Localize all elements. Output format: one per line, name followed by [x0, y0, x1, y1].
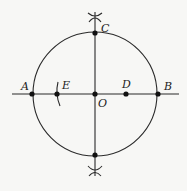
label-a: A [20, 80, 29, 93]
point-d [123, 91, 128, 96]
label-o: O [98, 97, 107, 110]
point-a [29, 91, 34, 96]
point-o [92, 91, 97, 96]
label-b: B [163, 80, 172, 93]
geometry-diagram: A E D B C O [0, 0, 187, 191]
point-e [54, 91, 59, 96]
point-b [155, 91, 160, 96]
label-d: D [121, 78, 131, 91]
point-bottom [92, 152, 97, 157]
label-c: C [101, 22, 110, 35]
point-c [92, 30, 97, 35]
label-e: E [61, 79, 70, 92]
